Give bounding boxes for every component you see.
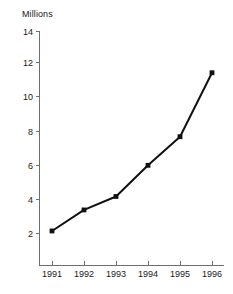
x-tick-label: 1996 [202, 269, 222, 279]
y-tick-label: 10 [23, 92, 33, 102]
y-tick-label: 8 [28, 127, 33, 137]
x-axis-ticks [53, 261, 213, 266]
series-line [52, 73, 212, 231]
y-tick-label: 12 [23, 58, 33, 68]
y-tick-label: 2 [28, 229, 33, 239]
y-tick-label: 14 [23, 27, 33, 37]
y-axis-tick-labels: 14 12 10 8 6 4 2 [23, 27, 33, 239]
data-point [146, 163, 151, 168]
data-point [178, 134, 183, 139]
data-point [82, 208, 87, 213]
data-point [210, 70, 215, 75]
data-point [114, 194, 119, 199]
x-tick-label: 1992 [74, 269, 94, 279]
y-axis-ticks [36, 32, 40, 234]
x-tick-label: 1995 [170, 269, 190, 279]
y-tick-label: 4 [28, 195, 33, 205]
chart-plot-area: 14 12 10 8 6 4 2 1991 1992 1993 1994 199… [0, 0, 233, 294]
x-tick-label: 1991 [42, 269, 62, 279]
series-markers [50, 70, 215, 233]
x-axis-tick-labels: 1991 1992 1993 1994 1995 1996 [42, 269, 222, 279]
x-tick-label: 1994 [138, 269, 158, 279]
data-point [50, 229, 55, 234]
line-chart: Millions 14 12 10 8 6 4 2 [0, 0, 233, 294]
x-tick-label: 1993 [106, 269, 126, 279]
y-tick-label: 6 [28, 161, 33, 171]
